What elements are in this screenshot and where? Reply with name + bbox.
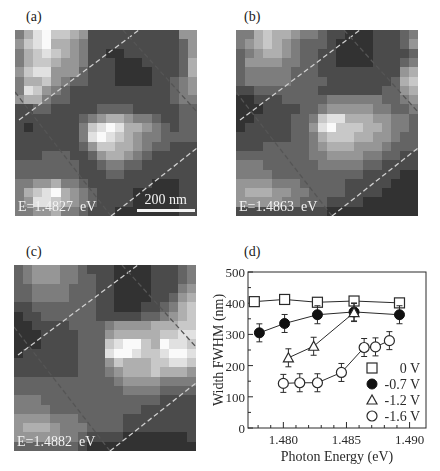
- marker-open-circle: [312, 378, 322, 388]
- legend: 0 V-0.7 V-1.2 V-1.6 V: [367, 361, 420, 424]
- marker-filled-circle: [394, 310, 404, 320]
- marker-open-circle: [278, 378, 288, 388]
- y-tick-label: 400: [226, 296, 246, 311]
- marker-filled-circle: [312, 310, 322, 320]
- marker-open-circle: [359, 343, 369, 353]
- marker-square: [280, 294, 290, 304]
- marker-filled-circle: [254, 328, 264, 338]
- marker-open-circle: [295, 378, 305, 388]
- marker-open-circle: [371, 342, 381, 352]
- x-axis-label: Photon Energy (eV): [281, 449, 394, 465]
- legend-label: -1.2 V: [384, 393, 420, 408]
- marker-filled-circle: [367, 379, 377, 389]
- x-tick-label: 1.485: [332, 432, 361, 447]
- y-tick-label: 0: [239, 421, 246, 436]
- y-tick-label: 200: [226, 359, 246, 374]
- marker-filled-circle: [280, 318, 290, 328]
- series-line: [254, 299, 399, 302]
- marker-square: [367, 363, 377, 373]
- series-07V: [254, 303, 404, 342]
- marker-triangle: [367, 395, 377, 404]
- fwhm-vs-energy-chart: 01002003004005001.4801.4851.490Photon En…: [0, 0, 440, 471]
- legend-label: 0 V: [400, 361, 420, 376]
- y-axis-label: Width FWHM (nm): [211, 294, 227, 407]
- marker-open-circle: [367, 411, 377, 421]
- series-0V: [249, 294, 404, 307]
- y-tick-label: 500: [226, 265, 246, 280]
- marker-triangle: [283, 353, 293, 362]
- marker-triangle: [309, 341, 319, 350]
- legend-label: -0.7 V: [384, 377, 420, 392]
- marker-open-circle: [336, 367, 346, 377]
- x-tick-label: 1.480: [269, 432, 298, 447]
- y-tick-label: 300: [226, 327, 246, 342]
- marker-square: [249, 297, 259, 307]
- y-tick-label: 100: [226, 390, 246, 405]
- legend-label: -1.6 V: [384, 409, 420, 424]
- x-tick-label: 1.490: [395, 432, 424, 447]
- marker-open-circle: [384, 336, 394, 346]
